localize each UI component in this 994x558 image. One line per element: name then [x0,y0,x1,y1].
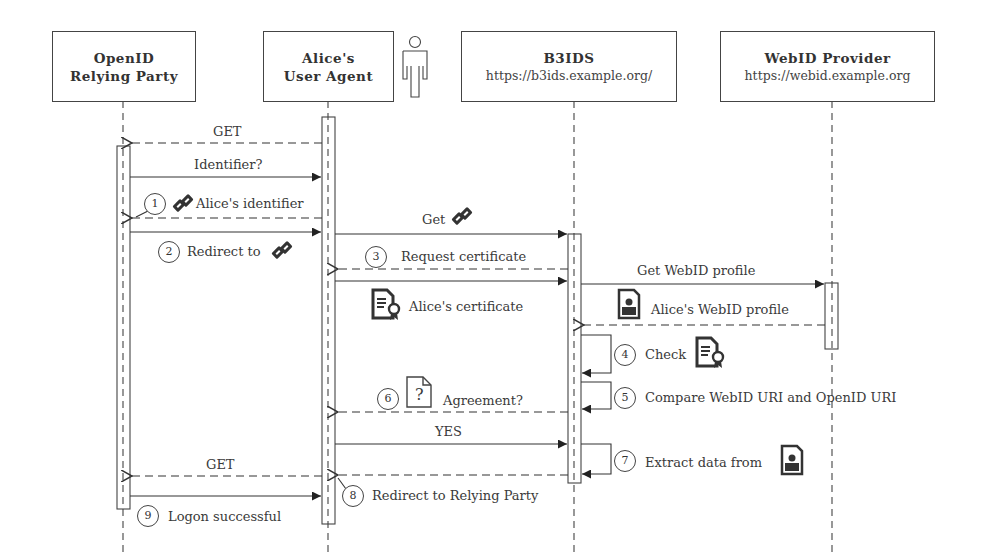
link-icon [271,240,293,262]
participant-user-agent: Alice's User Agent [263,31,394,102]
participant-title: B3IDS [462,49,676,67]
step-number: 7 [614,450,636,472]
message-label: GET [213,124,242,140]
step-number: 5 [614,387,636,409]
participant-url: https://b3ids.example.org/ [462,67,676,85]
participant-subtitle: Relying Party [53,67,195,85]
profile-document-icon [780,444,804,476]
person-icon [403,37,427,98]
participant-webid-provider: WebID Provider https://webid.example.org [720,31,935,102]
participant-title: OpenID [53,49,195,67]
message-label: Extract data from [645,455,762,471]
message-label: Request certificate [401,249,526,265]
message-label: Alice's identifier [196,196,304,212]
message-label: GET [206,457,235,473]
step-number: 2 [158,241,180,263]
message-label: Compare WebID URI and OpenID URI [645,390,896,406]
step-number: 8 [342,485,364,507]
message-label: Identifier? [194,157,262,173]
message-label: Check [645,347,686,363]
message-label: Get WebID profile [637,263,755,279]
step-number: 3 [365,246,387,268]
step-number: 1 [144,193,166,215]
message-label: Agreement? [443,393,523,409]
profile-document-icon [617,288,641,320]
sequence-diagram: OpenID Relying Party Alice's User Agent … [0,0,994,558]
step-number: 6 [377,388,399,410]
message-label: Logon successful [168,509,281,525]
step-number: 9 [137,505,159,527]
message-label: Redirect to [187,244,261,260]
participant-b3ids: B3IDS https://b3ids.example.org/ [461,31,677,102]
step-number: 4 [614,344,636,366]
message-label: Alice's certificate [409,299,523,315]
certificate-icon [695,336,727,369]
participant-subtitle: User Agent [264,67,393,85]
participant-relying-party: OpenID Relying Party [52,31,196,102]
message-label: Redirect to Relying Party [372,488,538,504]
participant-url: https://webid.example.org [721,67,934,85]
link-icon [451,206,473,228]
participant-title: WebID Provider [721,49,934,67]
certificate-icon [371,288,403,321]
question-mark: ? [415,387,424,403]
message-label: Get [422,212,445,228]
message-label: YES [435,424,462,440]
activation-webid [825,283,838,349]
message-label: Alice's WebID profile [651,302,789,318]
link-icon [172,193,194,215]
participant-title: Alice's [264,49,393,67]
